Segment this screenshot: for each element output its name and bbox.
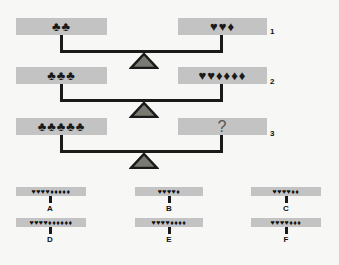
row-number-1: 1 [270,27,274,36]
option-d-stem [49,227,52,234]
option-e-label[interactable]: E [163,235,175,244]
option-e-symbols[interactable]: ♥♥♥♥♦♦♦♦ [135,218,203,227]
option-f-symbols[interactable]: ♥♥♥♥♦♦♦ [251,218,321,227]
option-e-stem [168,227,171,234]
option-f-stem [285,227,288,234]
option-a-stem [49,196,52,203]
right-pan-3-unknown: ? [178,118,267,135]
option-f-label[interactable]: F [280,235,292,244]
row-number-2: 2 [270,77,274,86]
option-c-label[interactable]: C [280,204,292,213]
right-pan-2: ♥♥♦♦♦♦ [178,67,267,84]
option-d-label[interactable]: D [44,235,56,244]
left-pan-1: ♣♣ [16,18,107,35]
option-b-label[interactable]: B [163,204,175,213]
left-pan-3: ♣♣♣♣♣ [16,118,107,135]
option-b-stem [168,196,171,203]
option-a-symbols[interactable]: ♥♥♥♥♦♦♦♦♦ [16,187,86,196]
option-c-stem [285,196,288,203]
option-d-symbols[interactable]: ♥♥♥♥♦♦♦♦♦♦ [16,218,86,227]
option-c-symbols[interactable]: ♥♥♥♥♦♦ [251,187,321,196]
option-b-symbols[interactable]: ♥♥♥♥♦ [135,187,203,196]
option-a-label[interactable]: A [44,204,56,213]
row-number-3: 3 [270,129,274,138]
left-pan-2: ♣♣♣ [16,67,107,84]
right-pan-1: ♥♥♦ [178,18,267,35]
